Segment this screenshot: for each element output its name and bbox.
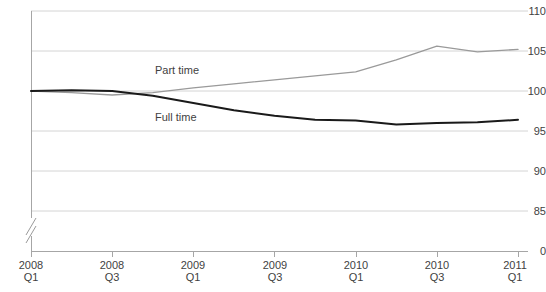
x-tick-quarter: Q1 <box>485 271 545 283</box>
x-tick-label: 2011 Q1 <box>485 259 545 283</box>
x-tick-quarter: Q1 <box>163 271 223 283</box>
x-tick-label: 2008 Q3 <box>82 259 142 283</box>
plot-area <box>0 0 546 292</box>
series-label-full-time: Full time <box>155 112 197 123</box>
x-tick-year: 2010 <box>407 259 467 271</box>
x-tick-label: 2009 Q3 <box>245 259 305 283</box>
x-tick-quarter: Q1 <box>326 271 386 283</box>
x-tick-quarter: Q3 <box>82 271 142 283</box>
x-tick-year: 2011 <box>485 259 545 271</box>
x-tick-label: 2010 Q1 <box>326 259 386 283</box>
x-tick-label: 2009 Q1 <box>163 259 223 283</box>
x-tick-label: 2008 Q1 <box>1 259 61 283</box>
line-chart: 110 105 100 95 90 85 0 Part time Fu <box>0 0 546 292</box>
x-tick-label: 2010 Q3 <box>407 259 467 283</box>
x-tick-year: 2009 <box>245 259 305 271</box>
x-tick-year: 2008 <box>82 259 142 271</box>
x-tick-year: 2008 <box>1 259 61 271</box>
series-line-part-time <box>31 46 518 95</box>
x-tick-quarter: Q3 <box>245 271 305 283</box>
axis-break-mark <box>26 218 36 235</box>
x-tick-year: 2009 <box>163 259 223 271</box>
x-tick-year: 2010 <box>326 259 386 271</box>
series-line-full-time <box>31 90 518 124</box>
series-label-part-time: Part time <box>155 65 199 76</box>
x-tick-quarter: Q3 <box>407 271 467 283</box>
x-tick-quarter: Q1 <box>1 271 61 283</box>
